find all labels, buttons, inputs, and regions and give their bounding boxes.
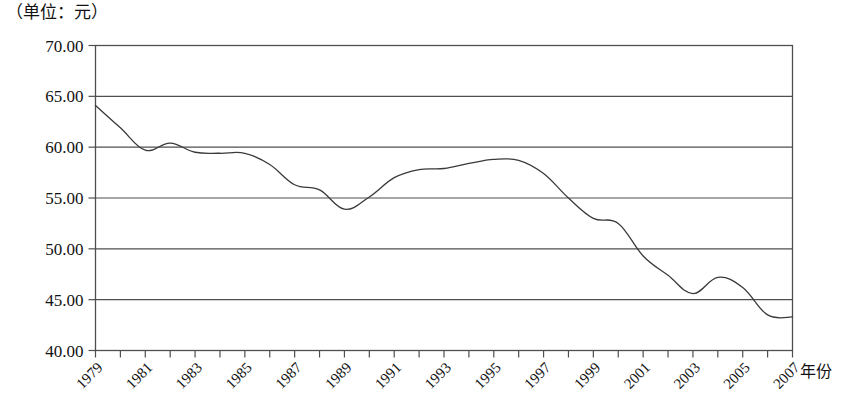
y-tick-label: 45.00 (45, 291, 83, 310)
gridlines-group (96, 96, 793, 350)
y-tick-label: 50.00 (45, 240, 83, 259)
x-tick-label: 1993 (422, 359, 455, 392)
data-series-line (96, 105, 793, 317)
x-tick-label: 1987 (272, 359, 305, 392)
x-tick-label: 1979 (73, 359, 106, 392)
x-tick-label: 2001 (621, 359, 654, 392)
plot-svg: 70.0065.0060.0055.0050.0045.0040.00 1979… (0, 0, 841, 398)
y-tick-label: 55.00 (45, 189, 83, 208)
y-tick-label: 70.00 (45, 37, 83, 56)
x-tick-label: 1997 (521, 359, 554, 392)
chart-figure: （单位：元） 年份 70.0065.0060.0055.0050.0045.00… (0, 0, 841, 398)
x-tick-label: 1983 (173, 359, 206, 392)
x-tick-label: 2007 (770, 359, 803, 392)
x-tick-label: 2005 (720, 359, 753, 392)
x-tick-label: 1989 (322, 359, 355, 392)
x-axis-ticks-group: 1979198119831985198719891991199319951997… (73, 351, 803, 392)
x-tick-label: 1999 (571, 359, 604, 392)
x-tick-label: 1985 (222, 359, 255, 392)
data-line-group (96, 105, 793, 317)
y-tick-label: 40.00 (45, 342, 83, 361)
x-tick-label: 1995 (471, 359, 504, 392)
y-tick-label: 65.00 (45, 87, 83, 106)
x-tick-label: 1991 (372, 359, 405, 392)
x-tick-label: 1981 (123, 359, 156, 392)
y-tick-label: 60.00 (45, 138, 83, 157)
x-tick-label: 2003 (671, 359, 704, 392)
y-axis-ticks-group: 70.0065.0060.0055.0050.0045.0040.00 (45, 37, 95, 361)
